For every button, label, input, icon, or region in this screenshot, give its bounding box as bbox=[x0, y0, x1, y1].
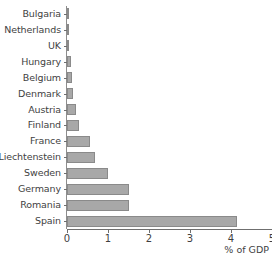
bar-row: Romania bbox=[67, 197, 272, 213]
bar bbox=[67, 40, 69, 51]
bar bbox=[67, 200, 129, 211]
y-axis-tick bbox=[64, 141, 67, 142]
y-axis-tick bbox=[64, 189, 67, 190]
bar bbox=[67, 216, 237, 227]
bar bbox=[67, 168, 108, 179]
y-axis-tick bbox=[64, 110, 67, 111]
y-axis-tick bbox=[64, 94, 67, 95]
bar bbox=[67, 152, 95, 163]
bar bbox=[67, 120, 79, 131]
x-axis-tick-label: 2 bbox=[146, 234, 152, 244]
bar-row: Belgium bbox=[67, 70, 272, 86]
y-axis-tick bbox=[64, 30, 67, 31]
bar-chart: BulgariaNetherlandsUKHungaryBelgiumDenma… bbox=[0, 0, 272, 258]
bar bbox=[67, 24, 69, 35]
x-axis-tick-label: 1 bbox=[105, 234, 111, 244]
y-axis-tick bbox=[64, 62, 67, 63]
bar-row: Spain bbox=[67, 213, 272, 229]
y-axis-tick bbox=[64, 14, 67, 15]
category-label-spain: Spain bbox=[35, 216, 61, 226]
bar-row: Germany bbox=[67, 181, 272, 197]
bar-row: Netherlands bbox=[67, 22, 272, 38]
bar bbox=[67, 136, 90, 147]
x-axis-tick-label: 0 bbox=[64, 234, 70, 244]
x-axis-title: % of GDP bbox=[224, 245, 269, 255]
category-label-netherlands: Netherlands bbox=[4, 25, 61, 35]
bar bbox=[67, 56, 71, 67]
bar-row: Denmark bbox=[67, 86, 272, 102]
bar-row: Liechtenstein bbox=[67, 149, 272, 165]
category-label-denmark: Denmark bbox=[18, 89, 61, 99]
y-axis-tick bbox=[64, 46, 67, 47]
y-axis-tick bbox=[64, 125, 67, 126]
y-axis-tick bbox=[64, 78, 67, 79]
y-axis-tick bbox=[64, 205, 67, 206]
bar-row: Austria bbox=[67, 102, 272, 118]
bar-row: Finland bbox=[67, 118, 272, 134]
category-label-liechtenstein: Liechtenstein bbox=[0, 152, 61, 162]
plot-area: BulgariaNetherlandsUKHungaryBelgiumDenma… bbox=[67, 6, 272, 229]
bar bbox=[67, 184, 129, 195]
category-label-belgium: Belgium bbox=[23, 73, 61, 83]
x-axis-tick-label: 4 bbox=[228, 234, 234, 244]
category-label-germany: Germany bbox=[18, 184, 61, 194]
category-label-bulgaria: Bulgaria bbox=[22, 9, 61, 19]
bar-row: UK bbox=[67, 38, 272, 54]
bar-row: France bbox=[67, 133, 272, 149]
category-label-finland: Finland bbox=[28, 120, 61, 130]
y-axis-tick bbox=[64, 173, 67, 174]
bar bbox=[67, 8, 69, 19]
bar bbox=[67, 104, 76, 115]
bar-row: Hungary bbox=[67, 54, 272, 70]
bar bbox=[67, 88, 73, 99]
y-axis-tick bbox=[64, 157, 67, 158]
y-axis-tick bbox=[64, 221, 67, 222]
x-axis-spine bbox=[67, 229, 272, 230]
bar-row: Sweden bbox=[67, 165, 272, 181]
category-label-austria: Austria bbox=[28, 105, 61, 115]
x-axis-tick-label: 5 bbox=[269, 234, 272, 244]
category-label-romania: Romania bbox=[20, 200, 61, 210]
category-label-france: France bbox=[30, 136, 61, 146]
category-label-sweden: Sweden bbox=[24, 168, 61, 178]
bar-row: Bulgaria bbox=[67, 6, 272, 22]
category-label-hungary: Hungary bbox=[21, 57, 61, 67]
x-axis-tick-label: 3 bbox=[187, 234, 193, 244]
category-label-uk: UK bbox=[48, 41, 61, 51]
bar bbox=[67, 72, 72, 83]
